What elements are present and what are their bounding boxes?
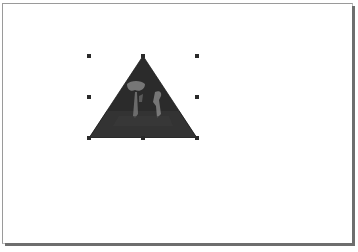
resize-handle-bottom-right[interactable]: [195, 136, 199, 140]
resize-handle-top-center[interactable]: [141, 54, 145, 58]
page-shadow-right: [352, 6, 355, 246]
resize-handle-bottom-left[interactable]: [87, 136, 91, 140]
resize-handle-top-left[interactable]: [87, 54, 91, 58]
resize-handle-bottom-center[interactable]: [141, 136, 145, 140]
resize-handle-top-right[interactable]: [195, 54, 199, 58]
resize-handle-middle-right[interactable]: [195, 95, 199, 99]
triangle-shape[interactable]: [89, 56, 197, 138]
page-shadow-bottom: [5, 243, 355, 246]
resize-handle-middle-left[interactable]: [87, 95, 91, 99]
